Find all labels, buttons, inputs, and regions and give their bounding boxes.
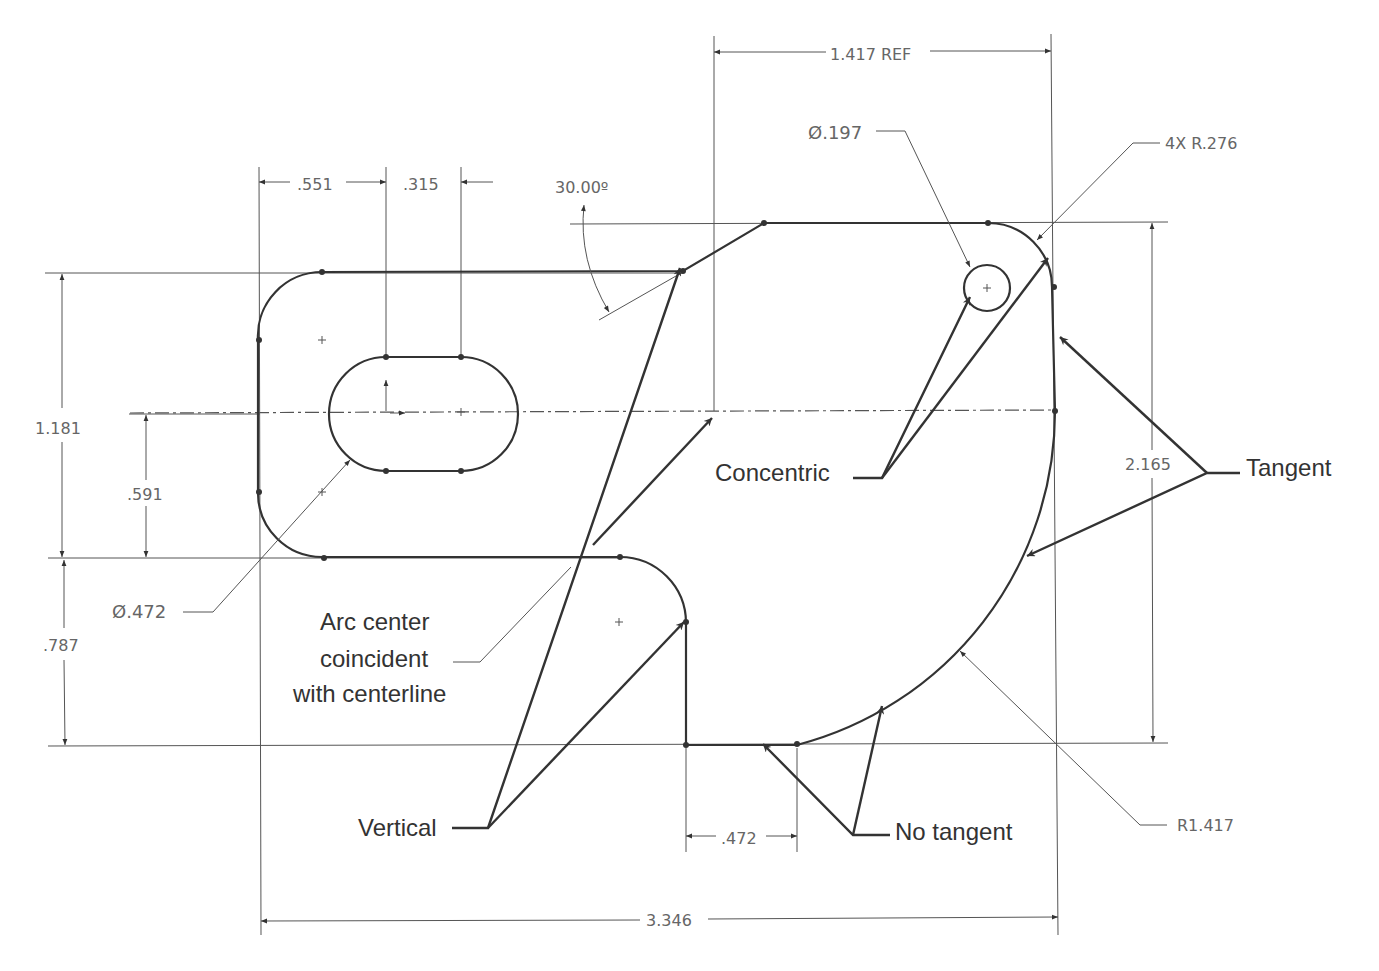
dim-1181: 1.181	[35, 419, 81, 438]
note-concentric: Concentric	[715, 459, 830, 486]
dim-angle-30: 30.00º	[555, 178, 608, 197]
annotation-leaders	[452, 258, 1240, 835]
dim-591: .591	[127, 485, 163, 504]
note-arc-center-line1: Arc center	[320, 608, 429, 635]
sketch-drawing: 1.417 REF .551 .315 30.00º Ø.197 4X R.27…	[0, 0, 1379, 971]
dim-1417-ref: 1.417 REF	[830, 45, 911, 64]
centerline	[130, 410, 1055, 413]
dim-787: .787	[43, 636, 79, 655]
dim-551: .551	[297, 175, 333, 194]
dim-dia-197: Ø.197	[808, 122, 862, 143]
dimension-leaders	[183, 131, 1167, 825]
dim-r1417: R1.417	[1177, 816, 1234, 835]
note-arc-center-line2: coincident	[320, 645, 428, 672]
note-arc-center-line3: with centerline	[292, 680, 446, 707]
center-marks	[318, 284, 991, 626]
note-vertical: Vertical	[358, 814, 437, 841]
dim-315: .315	[403, 175, 439, 194]
note-tangent: Tangent	[1246, 454, 1332, 481]
dim-3346: 3.346	[646, 911, 692, 930]
note-no-tangent: No tangent	[895, 818, 1013, 845]
dim-dia-472: Ø.472	[112, 601, 166, 622]
dim-472: .472	[721, 829, 757, 848]
slot-outline	[329, 357, 518, 471]
dim-2165: 2.165	[1125, 455, 1171, 474]
dim-4x-r276: 4X R.276	[1165, 134, 1237, 153]
